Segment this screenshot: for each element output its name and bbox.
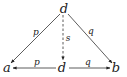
node-center-d: d — [58, 61, 66, 74]
edge-label-p-horizontal: p — [34, 58, 40, 67]
node-a: a — [3, 61, 11, 74]
edge-label-s: s — [66, 34, 71, 43]
edge-label-q-diagonal: q — [88, 27, 94, 36]
node-top-d: d — [60, 2, 68, 15]
edge-label-q-horizontal: q — [85, 58, 91, 67]
edge-label-p-diagonal: p — [33, 28, 39, 37]
node-b: b — [112, 61, 120, 74]
commutative-diagram: d a d b p q s p q — [0, 0, 127, 77]
